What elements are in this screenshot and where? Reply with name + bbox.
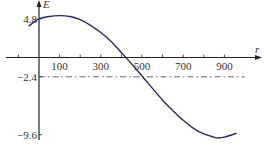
y-tick-label: 4.8 — [23, 13, 37, 25]
series — [29, 16, 245, 138]
y-axis-arrow-icon — [37, 0, 42, 7]
x-tick-label: 900 — [216, 60, 233, 72]
x-tick-label: 300 — [93, 60, 110, 72]
x-tick-label: 700 — [175, 60, 192, 72]
x-axis-label: r — [255, 43, 260, 55]
x-axis-arrow-icon — [255, 55, 262, 60]
x-tick-label: 100 — [51, 60, 68, 72]
x-tick-label: 500 — [134, 60, 151, 72]
labels: 1003005007009004.8−2.4−9.6Er — [17, 0, 260, 141]
y-tick-label: −9.6 — [17, 129, 37, 141]
chart: 1003005007009004.8−2.4−9.6Er — [0, 0, 264, 145]
y-tick-label: −2.4 — [17, 71, 37, 83]
y-axis-label: E — [42, 0, 50, 10]
